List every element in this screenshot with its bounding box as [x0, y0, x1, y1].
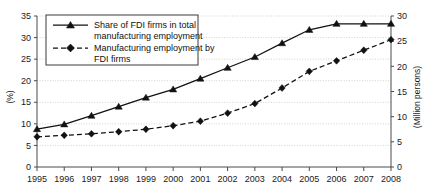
x-tick-label-1997: 1997	[81, 174, 101, 184]
legend-label-series-2-line2: FDI firms	[94, 54, 131, 64]
x-tick-label-2001: 2001	[190, 174, 210, 184]
left-tick-label-10: 10	[21, 119, 31, 129]
right-tick-label-30: 30	[397, 11, 407, 21]
left-tick-label-15: 15	[21, 97, 31, 107]
legend-label-series-1-line1: Share of FDI firms in total	[94, 20, 196, 30]
right-tick-label-10: 10	[397, 112, 407, 122]
x-tick-label-2008: 2008	[381, 174, 401, 184]
x-tick-label-2002: 2002	[218, 174, 238, 184]
x-tick-label-2003: 2003	[245, 174, 265, 184]
right-tick-label-5: 5	[397, 137, 402, 147]
x-tick-label-2000: 2000	[163, 174, 183, 184]
right-axis-title: (Million persons)	[412, 66, 422, 129]
legend-label-series-1-line2: manufacturing employment	[94, 31, 203, 41]
right-tick-label-15: 15	[397, 87, 407, 97]
x-tick-label-1999: 1999	[136, 174, 156, 184]
left-tick-label-25: 25	[21, 54, 31, 64]
chart-legend: Share of FDI firms in total manufacturin…	[46, 15, 215, 65]
left-tick-label-20: 20	[21, 76, 31, 86]
x-tick-label-2004: 2004	[272, 174, 292, 184]
left-axis-title: (%)	[5, 90, 15, 103]
x-tick-label-2005: 2005	[299, 174, 319, 184]
x-tick-label-1996: 1996	[54, 174, 74, 184]
x-tick-label-1995: 1995	[27, 174, 47, 184]
right-tick-label-25: 25	[397, 36, 407, 46]
x-tick-label-2006: 2006	[327, 174, 347, 184]
left-tick-label-5: 5	[26, 141, 31, 151]
x-tick-label-2007: 2007	[354, 174, 374, 184]
fdi-employment-line-chart: 05101520253035 051015202530 199519961997…	[0, 0, 429, 192]
right-tick-label-0: 0	[397, 162, 402, 172]
left-tick-label-30: 30	[21, 33, 31, 43]
left-tick-label-0: 0	[26, 162, 31, 172]
left-tick-label-35: 35	[21, 11, 31, 21]
right-tick-label-20: 20	[397, 62, 407, 72]
x-tick-label-1998: 1998	[109, 174, 129, 184]
legend-label-series-2-line1: Manufacturing employment by	[94, 43, 215, 53]
chart-container: 05101520253035 051015202530 199519961997…	[0, 0, 429, 192]
